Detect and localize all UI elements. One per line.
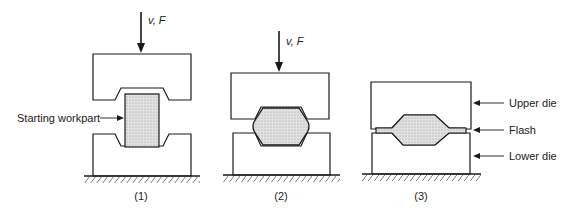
stage-2: v, F (2): [223, 31, 340, 202]
callout-arrow-icon: [473, 153, 504, 159]
stage-1: v, F Starting workpart (1): [17, 12, 200, 202]
ground-hatch: [84, 177, 200, 183]
caption-3: (3): [414, 190, 427, 202]
starting-workpart: [125, 94, 159, 147]
callout-starting-workpart: Starting workpart: [17, 112, 100, 124]
force-label: v, F: [148, 14, 167, 26]
callout-upper-die: Upper die: [509, 97, 557, 109]
ground-hatch: [223, 176, 340, 182]
callout-arrow-icon: [473, 127, 504, 133]
callout-lower-die: Lower die: [509, 150, 557, 162]
upper-die: [93, 54, 191, 100]
forging-diagram: v, F Starting workpart (1) v, F (2): [0, 0, 569, 214]
stage-3: Upper die Flash Lower die (3): [362, 82, 557, 202]
force-arrow-icon: [275, 31, 283, 72]
ground-hatch: [362, 175, 481, 181]
workpart-deformed: [253, 108, 309, 145]
force-arrow-icon: [137, 12, 145, 53]
callout-arrow-icon: [473, 100, 504, 106]
callout-flash: Flash: [509, 124, 536, 136]
callout-arrow-icon: [100, 115, 124, 121]
force-label: v, F: [286, 35, 305, 47]
caption-1: (1): [134, 190, 147, 202]
caption-2: (2): [274, 190, 287, 202]
